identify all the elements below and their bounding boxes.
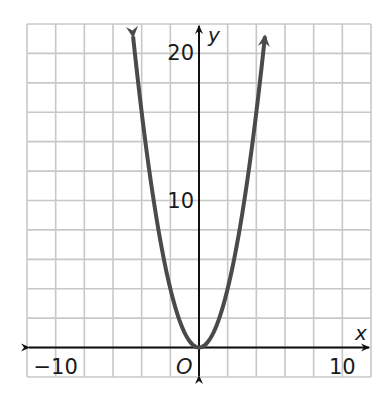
origin-label: O (176, 355, 193, 379)
y-tick-label: 20 (167, 41, 194, 65)
x-axis-label: x (354, 321, 367, 345)
x-tick-label: 10 (329, 355, 356, 379)
y-tick-label: 10 (167, 189, 194, 213)
x-tick-label: −10 (34, 355, 78, 379)
parabola-chart: −10101020 x y O (0, 0, 385, 409)
y-axis-label: y (207, 23, 221, 47)
tick-labels: −10101020 (34, 41, 356, 378)
